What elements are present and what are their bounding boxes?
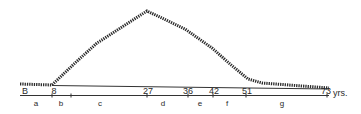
segment-labels: abcdefg	[34, 99, 284, 108]
age-label: 36	[183, 86, 193, 96]
age-label: B	[22, 86, 28, 96]
segment-label: c	[98, 99, 102, 108]
life-span-diagram: B82736425173 yrs. abcdefg	[0, 0, 361, 114]
segment-label: e	[198, 99, 203, 108]
age-label: 73	[321, 86, 331, 96]
age-label: 27	[143, 86, 153, 96]
segment-label: a	[34, 99, 39, 108]
segment-label: b	[59, 99, 64, 108]
unit-label: yrs.	[333, 88, 348, 98]
segment-label: g	[280, 99, 284, 108]
segment-label: d	[161, 99, 165, 108]
dotted-curve	[20, 11, 329, 88]
age-label: 42	[209, 86, 219, 96]
age-label: 51	[242, 86, 252, 96]
segment-label: f	[226, 99, 229, 108]
age-label: 8	[51, 86, 56, 96]
